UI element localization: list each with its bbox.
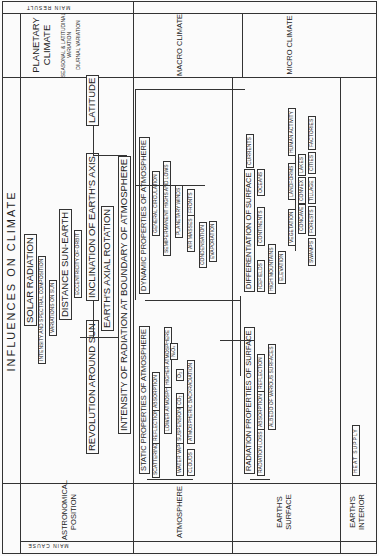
box-dynamic-properties: DYNAMIC PROPERTIES OF ATMOSPHERE (139, 137, 150, 294)
influences-on-climate-diagram: INFLUENCES ON CLIMATE MAIN CAUSE MAIN RE… (0, 0, 379, 556)
box-static-properties: STATIC PROPERTIES OF ATMOSPHERE (139, 326, 150, 474)
box-evaporation: EVAPORATION (209, 221, 217, 262)
connector (250, 479, 270, 480)
box-swamps: SWAMPS (308, 238, 316, 266)
box-reflection-surface: REFLECTION (257, 354, 265, 392)
box-general-circulation: GENERAL CIRCULATION (152, 171, 160, 236)
box-boundary-radiation: INTENSITY OF RADIATION AT BOUNDARY OF AT… (118, 156, 131, 434)
box-cities: CITIES (308, 152, 316, 174)
box-elevation: ELEVATION (278, 251, 286, 284)
frame-left (2, 553, 377, 554)
cause-earths-surface: EARTH'S SURFACE (275, 484, 293, 540)
connector (93, 300, 94, 338)
cause-astronomical: ASTRONOMICAL POSITION (60, 484, 78, 540)
box-scattering: SCATTERING (152, 440, 160, 478)
box-intensity-spectral: INTENSITY AND SPECTRAL COMPOSITION (38, 256, 46, 364)
box-differentiation: DIFFERENTIATION OF SURFACE (244, 169, 255, 292)
connector (295, 121, 296, 251)
box-axial-rotation: EARTH'S AXIAL ROTATION (101, 206, 114, 331)
cause-atmosphere: ATMOSPHERE (175, 484, 184, 540)
divider-result-col (2, 77, 376, 78)
result-micro-climate: MICRO CLIMATE (285, 14, 294, 76)
divider-cause-col (2, 483, 376, 484)
box-continents: CONTINENTS (257, 208, 265, 247)
connector (220, 340, 255, 341)
box-reflection: REFLECTION (152, 406, 160, 444)
box-air-masses: AIR MASSES (187, 215, 195, 252)
divider-title (20, 14, 21, 554)
box-revolution-around-sun: REVOLUTION AROUND SUN (86, 320, 99, 454)
connector (93, 126, 94, 156)
frame-top (2, 2, 3, 554)
box-solar-radiation: SOLAR RADIATION (24, 234, 37, 326)
box-heat-supply: HEAT SUPPLY (352, 425, 360, 476)
connector (135, 185, 205, 186)
connector (145, 300, 240, 301)
cause-earths-interior: EARTH'S INTERIOR (348, 484, 366, 540)
box-albedo: ALBEDO OF VARIOUS SURFACES (268, 344, 276, 430)
box-semipermanent: SEMIPERMANENT HIGHS AND LOWS (163, 161, 171, 256)
box-inclination-axis: INCLINATION OF EARTH'S AXIS (86, 153, 99, 301)
result-seasonal-variation: SEASONAL & LATITUDINAL VARIATION (60, 12, 72, 78)
result-planetary-climate: PLANETARY CLIMATE (30, 14, 52, 76)
box-eccentricity: ECCENTRICITY OF ORBIT (74, 230, 82, 298)
box-co2: CO₂ (176, 393, 184, 408)
frame-bottom (376, 2, 377, 554)
connector-double-arrow (240, 296, 241, 376)
box-radiation-loss: RADIATION LOSS (257, 428, 265, 476)
box-forests: FORESTS (308, 206, 316, 236)
main-cause-label: MAIN CAUSE (18, 543, 78, 549)
box-tillage: TILLAGE (308, 177, 316, 204)
diagram-title: INFLUENCES ON CLIMATE (5, 78, 17, 484)
divider-row-astronomical (133, 2, 134, 554)
box-distance-sun-earth: DISTANCE SUN-EARTH (59, 209, 72, 320)
box-o3: O₃ (176, 369, 184, 381)
main-result-label: MAIN RESULT (18, 5, 78, 11)
divider-main-cause (20, 541, 376, 542)
box-nxox: NₓOₓ (170, 343, 178, 360)
box-condensation: CONDENSATION (199, 222, 207, 268)
box-concave: CONCAVE (298, 204, 306, 234)
box-variations-on-sun: VARIATIONS ON SUN (49, 280, 57, 336)
box-fronts: FRONTS (187, 189, 195, 216)
divider-main-result (2, 13, 376, 14)
divider-result-macro (242, 14, 243, 78)
divider-row-surface (340, 78, 341, 554)
box-lakes: LAKES (298, 154, 306, 176)
box-clouds: CLOUDS (187, 449, 195, 476)
box-convex: CONVEX (298, 177, 306, 204)
result-macro-climate: MACRO CLIMATE (175, 14, 184, 76)
box-latitude: LATITUDE (86, 75, 99, 126)
box-absorption: ABSORPTION (152, 372, 160, 411)
frame-right (2, 1, 377, 2)
box-icefields: ICEFIELDS (257, 260, 265, 292)
connector (135, 89, 245, 90)
result-diurnal-variation: DIURNAL VARIATION (75, 12, 81, 78)
divider-row-atmosphere (232, 78, 233, 554)
box-planetary-winds: PLANETARY WINDS (175, 185, 183, 238)
connector (147, 479, 193, 480)
connector (80, 337, 120, 338)
box-oceans: OCEANS (257, 169, 265, 196)
box-currents: CURRENTS (246, 134, 254, 168)
box-backradiation: ATMOSPHERIC BACKRADIATION (187, 360, 195, 444)
box-radiation-properties: RADIATION PROPERTIES OF SURFACE (244, 327, 255, 474)
connector (135, 90, 136, 300)
box-high-mountains: HIGH MOUNTAINS (268, 244, 276, 294)
box-absorption-surface: ABSORPTION (257, 391, 265, 430)
box-suspensions: SUSPENSIONS (176, 402, 184, 444)
box-factories: FACTORIES (308, 116, 316, 150)
